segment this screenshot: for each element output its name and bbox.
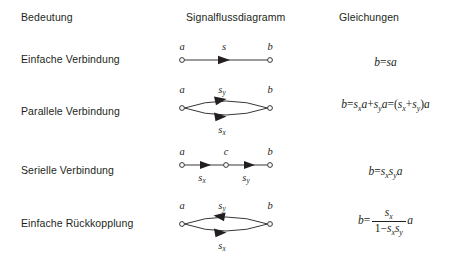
equation-parallel-connection: b=sxa+sya=(sx+sy)a	[300, 94, 471, 112]
diagram-serial-connection: a c b sx sy	[150, 142, 310, 192]
eq2-tail-var: a	[424, 98, 430, 110]
arrowhead-right	[218, 56, 230, 64]
node-b	[268, 106, 273, 111]
eq4-tail-var: a	[407, 214, 413, 226]
edge-label-sy: sy	[218, 84, 226, 97]
arrowhead-bottom-right	[214, 113, 227, 122]
eq1-input: a	[391, 56, 397, 68]
column-header-diagram: Signalflussdiagramm	[186, 11, 285, 23]
row-label-simple-feedback: Einfache Rückkopplung	[21, 217, 133, 229]
edge-arc-top	[185, 101, 268, 108]
eq3-var: a	[397, 165, 403, 177]
edge-label-sy: sy	[242, 172, 250, 185]
edge-arc-top-feedback	[185, 217, 268, 224]
node-label-b: b	[267, 200, 272, 211]
arrowhead-top-left	[214, 213, 226, 222]
node-b	[268, 58, 273, 63]
diagram-simple-feedback: a b sy sx	[150, 196, 310, 254]
edge-arc-bottom	[185, 108, 268, 115]
node-label-a: a	[179, 84, 184, 95]
node-a	[180, 222, 185, 227]
node-a	[180, 106, 185, 111]
edge-label-sx: sx	[198, 172, 206, 185]
eq4-fraction: sx 1−sxsy	[372, 206, 406, 237]
arrowhead-right-first	[200, 161, 211, 169]
node-label-b: b	[267, 41, 272, 52]
node-b	[268, 222, 273, 227]
row-label-simple-connection: Einfache Verbindung	[21, 53, 120, 65]
node-label-a: a	[179, 200, 184, 211]
node-label-c: c	[224, 146, 229, 157]
column-header-meaning: Bedeutung	[21, 11, 73, 23]
column-header-equations: Gleichungen	[339, 11, 399, 23]
node-label-b: b	[267, 146, 272, 157]
edge-label-sx: sx	[218, 240, 226, 253]
edge-label-s: s	[222, 41, 226, 52]
node-b	[268, 163, 273, 168]
eq4-denominator: 1−sxsy	[372, 221, 406, 237]
equation-simple-connection: b=sa	[300, 52, 471, 70]
equation-serial-connection: b=sxsya	[300, 161, 471, 179]
diagram-parallel-connection: a b sy sx	[150, 80, 310, 138]
diagram-simple-connection: a s b	[150, 38, 310, 72]
equation-simple-feedback: b= sx 1−sxsy a	[300, 206, 471, 237]
node-c	[224, 163, 229, 168]
eq4-num-sub: x	[389, 211, 392, 220]
eq4-den-g2-sub: y	[399, 227, 402, 236]
eq4-equals: =	[364, 214, 371, 226]
row-label-serial-connection: Serielle Verbindung	[21, 164, 114, 176]
node-label-a: a	[179, 146, 184, 157]
arrowhead-right-second	[244, 161, 255, 169]
node-a	[180, 58, 185, 63]
eq4-numerator: sx	[372, 206, 406, 221]
signal-flow-graph-table: Bedeutung Signalflussdiagramm Gleichunge…	[0, 0, 471, 257]
node-label-a: a	[179, 41, 184, 52]
arrowhead-bottom-right	[214, 229, 227, 238]
edge-label-sy: sy	[218, 200, 226, 213]
edge-arc-bottom	[185, 224, 268, 231]
edge-label-sx: sx	[218, 124, 226, 137]
row-label-parallel-connection: Parallele Verbindung	[21, 105, 120, 117]
node-label-b: b	[267, 84, 272, 95]
node-a	[180, 163, 185, 168]
